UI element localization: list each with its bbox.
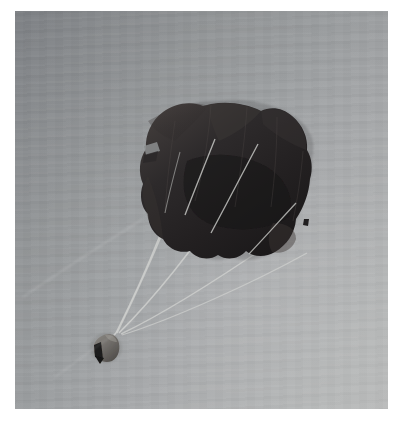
suspension-line-5 [122,253,307,335]
screenshot-root [0,0,405,424]
canopy-right-notch [303,219,309,226]
photo-frame [15,11,388,409]
film-streaks [23,219,143,377]
film-streak-1 [23,219,143,297]
parachute-scene [15,11,388,409]
parachute-canopy-group [140,100,314,260]
parachute-illustration [15,11,388,409]
